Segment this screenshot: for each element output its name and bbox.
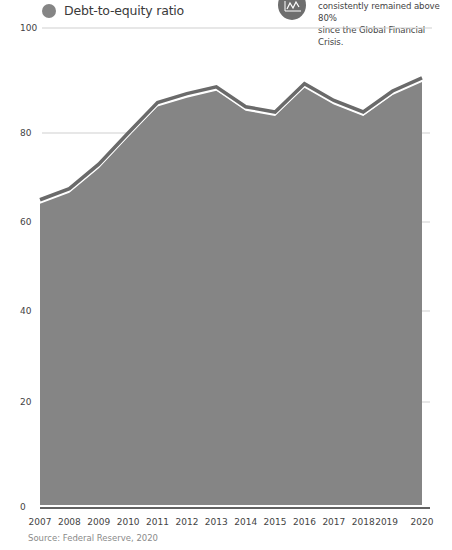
x-tick-label: 2019 bbox=[375, 517, 398, 527]
area-chart: 020406080100 200720082009201020112012201… bbox=[0, 0, 452, 550]
x-tick-label: 2015 bbox=[264, 517, 287, 527]
x-axis-ticks: 2007200820092010201120122013201420152016… bbox=[29, 517, 434, 527]
y-tick-label: 80 bbox=[20, 128, 32, 138]
y-tick-label: 20 bbox=[20, 397, 32, 407]
y-axis-ticks: 020406080100 bbox=[20, 23, 37, 512]
x-tick-label: 2008 bbox=[58, 517, 81, 527]
source-note: Source: Federal Reserve, 2020 bbox=[28, 533, 158, 543]
x-tick-label: 2017 bbox=[322, 517, 345, 527]
y-tick-label: 0 bbox=[20, 502, 26, 512]
x-tick-label: 2011 bbox=[146, 517, 169, 527]
y-tick-label: 40 bbox=[20, 306, 32, 316]
x-tick-label: 2020 bbox=[411, 517, 434, 527]
y-tick-label: 60 bbox=[20, 217, 32, 227]
x-tick-label: 2007 bbox=[29, 517, 52, 527]
x-tick-label: 2012 bbox=[175, 517, 198, 527]
x-tick-label: 2016 bbox=[293, 517, 316, 527]
x-tick-label: 2010 bbox=[117, 517, 140, 527]
x-tick-label: 2018 bbox=[352, 517, 375, 527]
y-tick-label: 100 bbox=[20, 23, 37, 33]
area-series bbox=[40, 82, 422, 505]
x-tick-label: 2009 bbox=[87, 517, 110, 527]
x-tick-label: 2013 bbox=[205, 517, 228, 527]
x-tick-label: 2014 bbox=[234, 517, 257, 527]
